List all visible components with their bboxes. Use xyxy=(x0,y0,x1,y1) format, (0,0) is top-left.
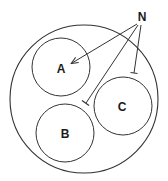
edge-n-to-b-inhibit xyxy=(86,25,138,103)
label-a: A xyxy=(57,62,66,76)
label-b: B xyxy=(61,127,70,141)
edge-n-to-c-inhibit xyxy=(134,25,141,73)
inhibit-bar-c xyxy=(131,73,138,74)
edge-n-to-a-arrow xyxy=(72,24,137,63)
label-c: C xyxy=(118,100,127,114)
label-n: N xyxy=(138,10,147,24)
venn-diagram: N A B C xyxy=(0,0,168,181)
inhibit-bar-b xyxy=(82,101,89,106)
outer-circle xyxy=(10,25,158,173)
